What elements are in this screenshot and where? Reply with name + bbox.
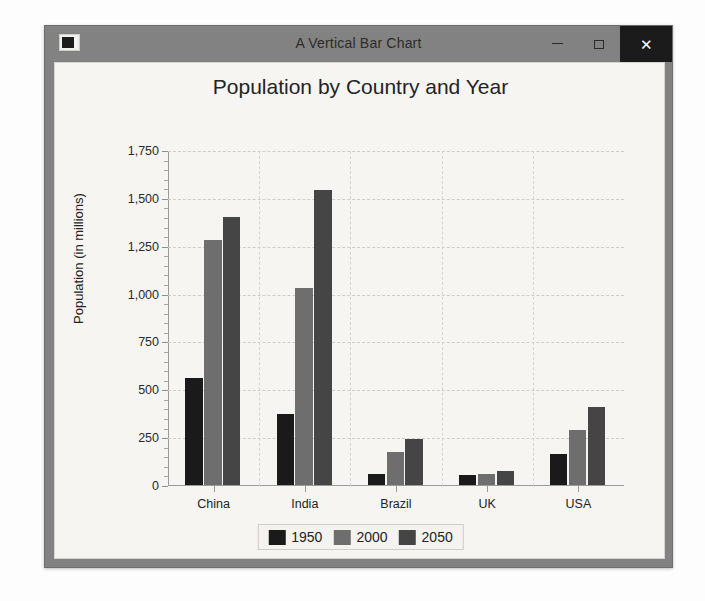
legend-swatch-icon xyxy=(268,530,285,545)
y-axis-minor-tick xyxy=(164,476,168,477)
y-axis-minor-tick xyxy=(164,266,168,267)
close-icon: ✕ xyxy=(640,37,653,52)
y-axis-minor-tick xyxy=(164,429,168,430)
legend-item[interactable]: 2000 xyxy=(333,529,387,545)
gridline-vertical xyxy=(259,151,260,486)
bar xyxy=(387,452,404,486)
bar xyxy=(550,454,567,485)
maximize-button[interactable] xyxy=(578,26,620,62)
y-axis-minor-tick xyxy=(164,161,168,162)
y-axis-minor-tick xyxy=(164,314,168,315)
bar-chart: Population by Country and Year Populatio… xyxy=(55,63,666,560)
maximize-icon xyxy=(594,40,604,49)
gridline-vertical xyxy=(442,151,443,486)
y-axis-minor-tick xyxy=(164,419,168,420)
x-axis-tick xyxy=(305,486,306,492)
legend-label: 2000 xyxy=(356,529,387,545)
y-axis-tick-label: 500 xyxy=(138,383,159,397)
minimize-icon xyxy=(552,43,563,44)
legend-label: 1950 xyxy=(291,529,322,545)
bar xyxy=(368,474,385,485)
window-client-area: Population by Country and Year Populatio… xyxy=(54,62,665,559)
gridline-vertical xyxy=(350,151,351,486)
y-axis-minor-tick xyxy=(164,285,168,286)
plot-area: 02505007501,0001,2501,5001,750ChinaIndia… xyxy=(168,151,624,486)
y-axis-tick xyxy=(162,199,168,200)
bar xyxy=(185,378,202,485)
y-axis-minor-tick xyxy=(164,275,168,276)
close-button[interactable]: ✕ xyxy=(620,26,672,62)
legend-swatch-icon xyxy=(399,530,416,545)
x-axis-tick-label: USA xyxy=(566,497,592,511)
y-axis-minor-tick xyxy=(164,362,168,363)
y-axis-tick xyxy=(162,247,168,248)
y-axis-tick xyxy=(162,438,168,439)
y-axis-minor-tick xyxy=(164,352,168,353)
y-axis-minor-tick xyxy=(164,180,168,181)
bar xyxy=(314,190,331,485)
bar xyxy=(478,474,495,485)
application-window: A Vertical Bar Chart ✕ Population by Cou… xyxy=(44,25,673,568)
minimize-button[interactable] xyxy=(536,26,578,62)
chart-legend: 195020002050 xyxy=(257,524,463,550)
y-axis-minor-tick xyxy=(164,218,168,219)
y-axis-minor-tick xyxy=(164,371,168,372)
y-axis-tick-label: 1,000 xyxy=(128,288,159,302)
x-axis-tick xyxy=(214,486,215,492)
bar xyxy=(459,475,476,485)
x-axis-tick xyxy=(396,486,397,492)
bar xyxy=(569,430,586,485)
y-axis-tick xyxy=(162,342,168,343)
x-axis-tick-label: China xyxy=(197,497,230,511)
y-axis-minor-tick xyxy=(164,256,168,257)
y-axis-tick-label: 750 xyxy=(138,335,159,349)
x-axis-tick-label: India xyxy=(291,497,318,511)
legend-label: 2050 xyxy=(422,529,453,545)
y-axis-minor-tick xyxy=(164,381,168,382)
bar xyxy=(204,240,221,485)
chart-title: Population by Country and Year xyxy=(55,75,666,99)
y-axis-minor-tick xyxy=(164,457,168,458)
x-axis-tick-label: UK xyxy=(479,497,496,511)
y-axis-tick xyxy=(162,486,168,487)
x-axis-tick xyxy=(487,486,488,492)
bar xyxy=(277,414,294,485)
y-axis-tick xyxy=(162,295,168,296)
y-axis-minor-tick xyxy=(164,170,168,171)
y-axis-minor-tick xyxy=(164,228,168,229)
y-axis-minor-tick xyxy=(164,189,168,190)
gridline-horizontal xyxy=(168,151,624,152)
window-titlebar[interactable]: A Vertical Bar Chart ✕ xyxy=(45,26,672,62)
x-axis-tick xyxy=(578,486,579,492)
y-axis-label: Population (in millions) xyxy=(71,144,86,374)
y-axis-minor-tick xyxy=(164,448,168,449)
window-controls: ✕ xyxy=(536,26,672,62)
y-axis-tick xyxy=(162,390,168,391)
x-axis-tick-label: Brazil xyxy=(380,497,411,511)
y-axis-minor-tick xyxy=(164,304,168,305)
bar xyxy=(295,288,312,485)
bar xyxy=(405,439,422,485)
y-axis-minor-tick xyxy=(164,323,168,324)
y-axis-minor-tick xyxy=(164,333,168,334)
y-axis-tick xyxy=(162,151,168,152)
y-axis-minor-tick xyxy=(164,208,168,209)
y-axis-tick-label: 250 xyxy=(138,431,159,445)
bar xyxy=(588,407,605,485)
legend-item[interactable]: 1950 xyxy=(268,529,322,545)
bar xyxy=(223,217,240,485)
legend-item[interactable]: 2050 xyxy=(399,529,453,545)
y-axis-line xyxy=(168,151,169,486)
y-axis-tick-label: 0 xyxy=(152,479,159,493)
screen: A Vertical Bar Chart ✕ Population by Cou… xyxy=(0,0,705,601)
bar xyxy=(497,471,514,485)
y-axis-tick-label: 1,500 xyxy=(128,192,159,206)
y-axis-tick-label: 1,250 xyxy=(128,240,159,254)
gridline-vertical xyxy=(533,151,534,486)
y-axis-tick-label: 1,750 xyxy=(128,144,159,158)
y-axis-minor-tick xyxy=(164,400,168,401)
gridline-horizontal xyxy=(168,199,624,200)
y-axis-minor-tick xyxy=(164,467,168,468)
y-axis-minor-tick xyxy=(164,409,168,410)
y-axis-minor-tick xyxy=(164,237,168,238)
